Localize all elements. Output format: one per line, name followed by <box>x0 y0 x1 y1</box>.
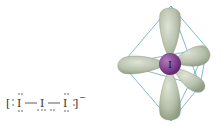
central-atom-label: I <box>168 60 172 70</box>
diagram-root: [ I I I ] − <box>0 0 221 127</box>
octahedral-orbital-model: I <box>0 0 221 127</box>
lobe-top <box>159 8 180 60</box>
